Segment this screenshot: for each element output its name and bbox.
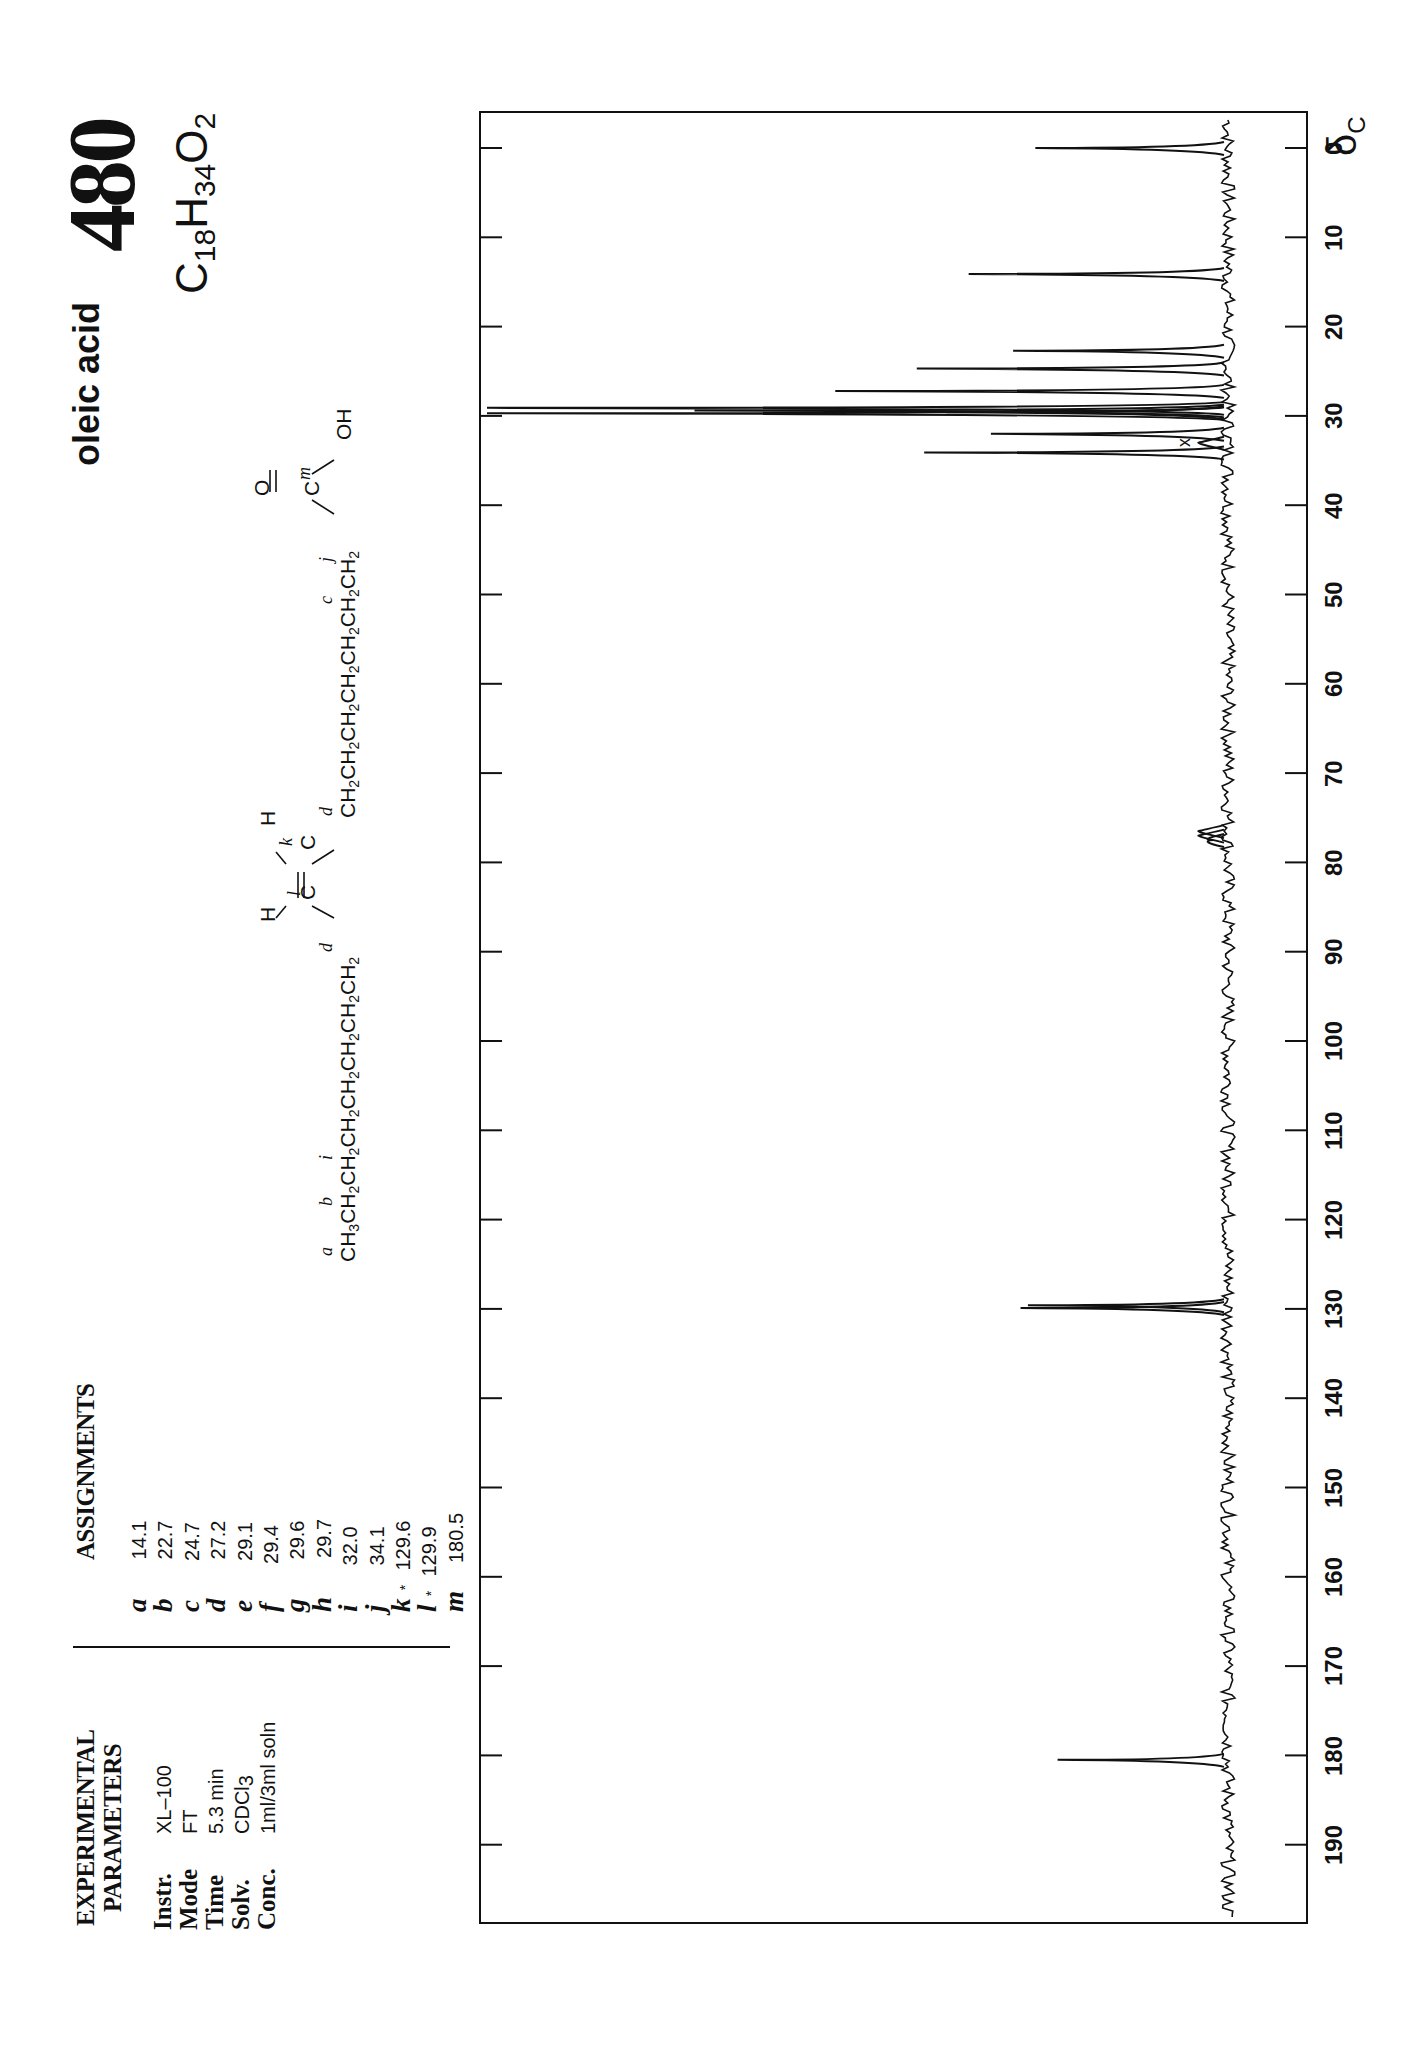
tick-label: 140 — [1320, 1378, 1348, 1418]
carbonyl-O: O — [250, 480, 274, 496]
spectrum-trace — [487, 120, 1235, 1917]
compound-name: oleic acid — [66, 302, 108, 466]
assignment-row: g29.6 — [282, 1521, 308, 1613]
assignment-row: a14.1 — [124, 1521, 150, 1613]
label-m: m — [294, 467, 315, 480]
parameter-value: FT — [179, 1810, 201, 1834]
nmr-spectrum-plot — [0, 0, 1402, 2064]
label-j: j — [316, 557, 337, 562]
alkene-right-C: C — [296, 835, 320, 850]
parameter-label: Instr. — [150, 1834, 176, 1930]
assignment-row: k*129.6 — [388, 1521, 414, 1613]
assignment-letter: g — [280, 1599, 310, 1613]
assignment-row: i32.0 — [335, 1526, 361, 1612]
assignment-letter: l — [412, 1604, 442, 1612]
assignment-letter: d — [201, 1599, 231, 1613]
assignment-row: b22.7 — [150, 1521, 176, 1613]
assignment-value: 24.7 — [179, 1522, 205, 1578]
tick-label: 150 — [1320, 1468, 1348, 1508]
tick-label: 50 — [1320, 581, 1348, 608]
label-i: i — [316, 1155, 337, 1160]
label-c: c — [316, 596, 337, 604]
chain-right: CH2CH2CH2CH2CH2CH2CH2 — [336, 551, 362, 818]
assignment-value: 29.6 — [284, 1521, 310, 1577]
label-k: k — [276, 838, 297, 846]
tick-label: 10 — [1320, 224, 1348, 251]
plot-frame — [480, 112, 1307, 1923]
tick-label: 70 — [1320, 760, 1348, 787]
carboxyl-C: C — [300, 481, 324, 496]
tick-label: 120 — [1320, 1200, 1348, 1240]
assignment-row: h29.7 — [309, 1519, 335, 1612]
label-d2: d — [316, 807, 337, 816]
parameter-label: Solv. — [228, 1834, 254, 1930]
entry-number: 480 — [54, 120, 150, 252]
tick-label: 180 — [1320, 1735, 1348, 1775]
hydroxyl-OH: OH — [332, 409, 356, 441]
impurity-marker: x — [1174, 438, 1195, 447]
assignment-letter: m — [439, 1591, 469, 1612]
experimental-heading: EXPERIMENTAL PARAMETERS — [72, 1730, 126, 1926]
assignment-value: 32.0 — [337, 1526, 363, 1582]
tick-label: 110 — [1320, 1112, 1348, 1151]
assignment-value: 29.1 — [232, 1522, 258, 1578]
tick-label: 40 — [1320, 492, 1348, 519]
assignment-value: 29.4 — [258, 1525, 284, 1581]
tick-label: 20 — [1320, 313, 1348, 340]
parameter-row: ModeFT — [176, 1810, 203, 1930]
assignment-value: 29.7 — [311, 1519, 337, 1575]
assignment-value: 27.2 — [205, 1521, 231, 1577]
assignment-row: d27.2 — [203, 1521, 229, 1613]
label-b: b — [316, 1197, 337, 1206]
assignment-value: 129.6 — [390, 1521, 416, 1577]
tick-label: 160 — [1320, 1557, 1348, 1597]
chain-left: CH3CH2CH2CH2CH2CH2CH2CH2 — [336, 957, 362, 1262]
assignment-row: m180.5 — [441, 1513, 467, 1612]
assignment-value: 34.1 — [364, 1526, 390, 1582]
tick-label: 90 — [1320, 938, 1348, 965]
tick-label: 130 — [1320, 1289, 1348, 1329]
assignment-value: 180.5 — [443, 1513, 469, 1569]
tick-label: 60 — [1320, 670, 1348, 697]
assignment-value: 22.7 — [152, 1521, 178, 1577]
assignment-value: 14.1 — [126, 1521, 152, 1577]
panel-divider — [73, 1646, 450, 1648]
axis-unit-label: δC — [1320, 116, 1371, 156]
assignment-row: l*129.9 — [414, 1526, 440, 1612]
assignment-row: e29.1 — [230, 1522, 256, 1612]
parameter-label: Time — [202, 1834, 228, 1930]
parameter-row: Conc.1ml/3ml soln — [254, 1722, 281, 1930]
alkene-right-H: H — [256, 811, 280, 826]
tick-label: 30 — [1320, 403, 1348, 430]
assignment-row: c24.7 — [177, 1522, 203, 1612]
label-a: a — [316, 1247, 337, 1256]
tick-label: 190 — [1320, 1825, 1348, 1865]
molecular-formula: C18H34O2 — [170, 113, 220, 294]
parameter-label: Conc. — [254, 1834, 280, 1930]
assignment-row: f29.4 — [256, 1525, 282, 1612]
parameter-value: XL–100 — [153, 1765, 175, 1834]
assignment-letter: i — [333, 1604, 363, 1612]
label-d1: d — [316, 943, 337, 952]
assignment-letter: b — [148, 1599, 178, 1613]
tick-label: 80 — [1320, 849, 1348, 876]
parameter-row: Time5.3 min — [202, 1768, 229, 1930]
parameter-value: CDCl — [231, 1786, 253, 1834]
tick-label: 100 — [1320, 1021, 1348, 1061]
assignments-heading: ASSIGNMENTS — [72, 1384, 99, 1561]
axis-ticks — [480, 148, 1307, 1845]
alkene-left-C: C — [296, 885, 320, 900]
parameter-value: 5.3 min — [205, 1768, 227, 1834]
parameter-row: Instr.XL–100 — [150, 1765, 177, 1930]
parameter-label: Mode — [176, 1834, 202, 1930]
assignment-row: j34.1 — [362, 1526, 388, 1612]
tick-label: 170 — [1320, 1646, 1348, 1686]
parameter-value: 1ml/3ml soln — [257, 1722, 279, 1834]
alkene-left-H: H — [256, 907, 280, 922]
assignment-value: 129.9 — [416, 1526, 442, 1582]
